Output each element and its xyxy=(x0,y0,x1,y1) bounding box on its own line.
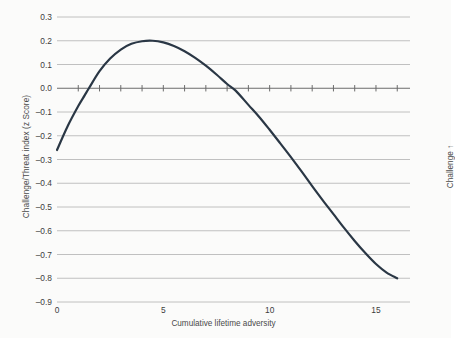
x-tick-labels-group: 051015 xyxy=(55,305,381,315)
y-tick-label: –0.7 xyxy=(36,250,53,260)
y-axis-title: Challenge/Threat index (z Score) xyxy=(22,57,31,257)
y-tick-label: 0.1 xyxy=(40,60,52,70)
y-axis-title-right: Challenge ↑ xyxy=(446,77,455,257)
y-tick-label: 0.2 xyxy=(40,36,52,46)
y-tick-label: –0.9 xyxy=(36,297,53,307)
x-tick-label: 0 xyxy=(55,305,60,315)
x-axis-title: Cumulative lifetime adversity xyxy=(57,319,390,328)
x-tick-label: 5 xyxy=(161,305,166,315)
y-tick-label: –0.6 xyxy=(36,226,53,236)
x-tick-label: 15 xyxy=(371,305,381,315)
y-tick-label: –0.5 xyxy=(36,202,53,212)
y-tick-label: –0.2 xyxy=(36,131,53,141)
x-tick-label: 10 xyxy=(265,305,275,315)
y-tick-label: –0.4 xyxy=(36,178,53,188)
y-tick-label: 0.0 xyxy=(40,83,52,93)
y-tick-label: 0.3 xyxy=(40,12,52,22)
y-tick-label: –0.1 xyxy=(36,107,53,117)
y-tick-label: –0.8 xyxy=(36,273,53,283)
y-tick-labels-group: 0.30.20.10.0–0.1–0.2–0.3–0.4–0.5–0.6–0.7… xyxy=(36,12,53,307)
y-tick-label: –0.3 xyxy=(36,155,53,165)
